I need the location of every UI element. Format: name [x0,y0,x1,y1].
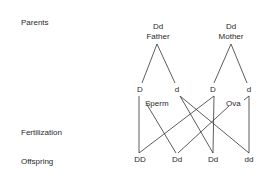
ovumd-to-Dd-line [178,106,229,153]
spermd-to-dd-line [180,96,249,153]
spermd-to-Dd2-line [180,96,213,153]
ovumD-to-DD-line [139,96,214,153]
mother-to-D-line [214,44,231,83]
ovumd-tick-line [244,96,249,100]
cross-lines [0,0,267,176]
ovumD-to-Dd2-line [213,96,214,153]
father-to-D-line [142,44,157,83]
father-to-d-line [157,44,175,83]
mother-to-d-line [231,44,247,83]
